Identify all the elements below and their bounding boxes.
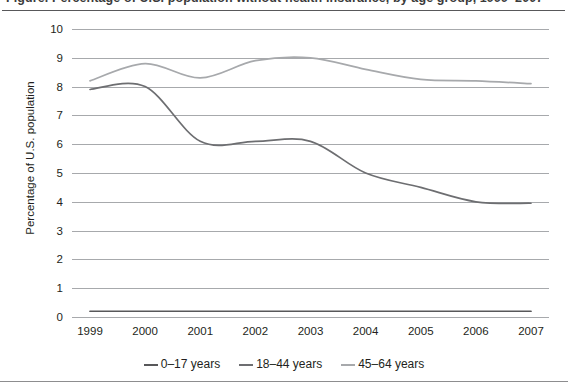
y-axis-tick-label: 6 [23, 138, 63, 150]
x-axis-tick-label: 1999 [77, 325, 103, 337]
y-axis-tick-label: 0 [23, 311, 63, 323]
y-axis-tick-label: 9 [23, 52, 63, 64]
bottom-divider [0, 381, 568, 382]
x-axis-tick-label: 2006 [463, 325, 489, 337]
legend-item[interactable]: 45–64 years [341, 357, 424, 371]
legend-label: 45–64 years [358, 357, 424, 371]
y-axis-tick-label: 2 [23, 253, 63, 265]
plot-area: 012345678910 199920002001200220032004200… [72, 29, 549, 317]
series-lines [72, 29, 549, 317]
y-axis-tick-label: 3 [23, 225, 63, 237]
legend-item[interactable]: 18–44 years [239, 357, 322, 371]
x-axis-tick-label: 2002 [243, 325, 269, 337]
y-axis-tick-label: 1 [23, 282, 63, 294]
figure-chart: Figure. Percentage of U.S. population wi… [0, 0, 568, 388]
chart-legend: 0–17 years18–44 years45–64 years [0, 357, 568, 371]
legend-line-swatch [239, 364, 253, 366]
legend-item[interactable]: 0–17 years [144, 357, 220, 371]
y-axis-tick-label: 7 [23, 109, 63, 121]
legend-line-swatch [144, 364, 158, 366]
legend-line-swatch [341, 364, 355, 366]
top-divider [2, 10, 565, 11]
y-axis-tick-label: 4 [23, 196, 63, 208]
legend-label: 0–17 years [161, 357, 220, 371]
x-axis-tick-label: 2004 [353, 325, 379, 337]
x-axis-tick-label: 2003 [298, 325, 324, 337]
series-line-18-44-years [90, 83, 531, 203]
gridline [72, 317, 549, 318]
x-axis-tick-label: 2007 [518, 325, 544, 337]
x-axis-tick-label: 2001 [187, 325, 213, 337]
legend-label: 18–44 years [256, 357, 322, 371]
x-axis-tick-label: 2000 [132, 325, 158, 337]
y-axis-tick-label: 8 [23, 81, 63, 93]
series-line-45-64-years [90, 57, 531, 84]
figure-title: Figure. Percentage of U.S. population wi… [0, 0, 568, 7]
x-axis-tick-label: 2005 [408, 325, 434, 337]
y-axis-tick-label: 10 [23, 23, 63, 35]
y-axis-tick-label: 5 [23, 167, 63, 179]
